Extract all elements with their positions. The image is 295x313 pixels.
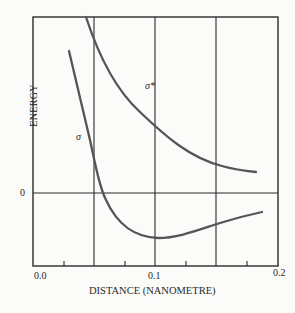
x-tick-label-2: 0.2: [273, 267, 286, 278]
zero-label: 0: [20, 187, 25, 198]
x-tick-label-1: 0.1: [148, 270, 161, 281]
energy-distance-chart: [0, 0, 295, 313]
sigma-star-curve: [86, 17, 256, 172]
sigma-curve: [69, 51, 262, 238]
x-tick-label-0: 0.0: [34, 270, 47, 281]
x-axis-label: DISTANCE (NANOMETRE): [89, 285, 216, 296]
y-axis-label: ENERGY: [28, 84, 39, 126]
sigma-star-label: σ*: [145, 80, 155, 91]
sigma-label: σ: [76, 131, 81, 142]
